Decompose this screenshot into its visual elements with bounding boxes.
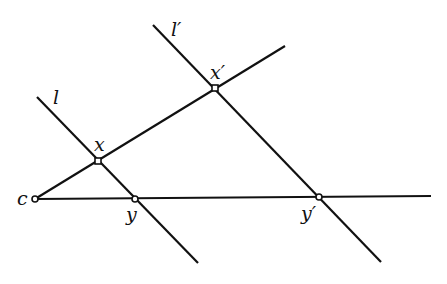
label-x-prime: x′	[210, 61, 226, 83]
label-l-prime: l′	[171, 18, 182, 40]
point-y-prime	[316, 194, 322, 200]
ray-c-through-y	[35, 196, 431, 199]
label-x: x	[94, 133, 105, 155]
similar-triangles-diagram: c x y x′ y′ l l′	[0, 0, 447, 284]
point-x	[95, 158, 101, 164]
label-y-prime: y′	[300, 202, 317, 224]
line-l	[37, 97, 198, 263]
point-y	[132, 196, 138, 202]
point-x-prime	[212, 85, 218, 91]
label-c: c	[17, 187, 28, 209]
label-y: y	[125, 203, 137, 225]
point-c	[32, 196, 38, 202]
diagram-canvas: c x y x′ y′ l l′	[0, 0, 447, 284]
line-l-prime	[153, 25, 381, 262]
label-l: l	[53, 86, 59, 108]
